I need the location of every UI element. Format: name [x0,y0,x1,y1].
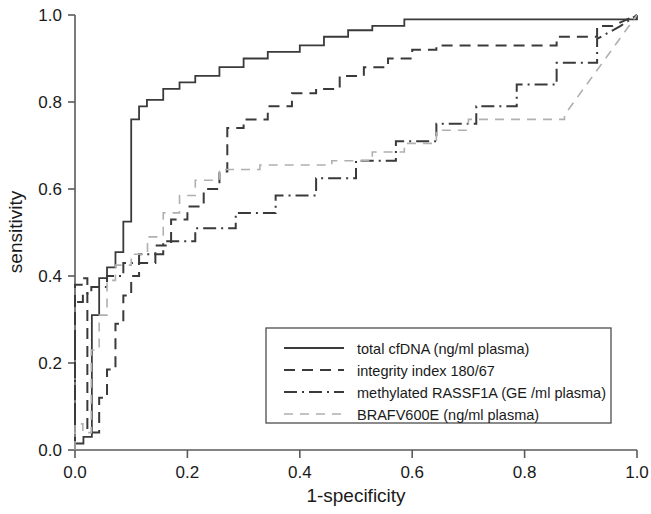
legend-label-2: methylated RASSF1A (GE /ml plasma) [357,385,606,401]
y-tick-label: 0.2 [38,354,62,373]
y-tick-label: 1.0 [38,6,62,25]
x-tick-label: 0.8 [513,463,537,482]
y-axis-ticks: 0.00.20.40.60.81.0 [38,6,75,460]
x-axis-ticks: 0.00.20.40.60.81.0 [63,450,649,482]
legend-label-3: BRAFV600E (ng/ml plasma) [357,407,539,423]
x-tick-label: 0.6 [400,463,424,482]
y-tick-label: 0.4 [38,267,62,286]
y-tick-label: 0.8 [38,93,62,112]
y-tick-label: 0.0 [38,441,62,460]
legend-label-1: integrity index 180/67 [357,363,495,379]
x-axis-title: 1-specificity [306,485,406,506]
legend-label-0: total cfDNA (ng/ml plasma) [357,341,529,357]
legend: total cfDNA (ng/ml plasma)integrity inde… [266,328,611,423]
y-tick-label: 0.6 [38,180,62,199]
x-tick-label: 0.4 [288,463,312,482]
y-axis-title: sensitivity [5,190,26,273]
roc-plot-svg: 0.00.20.40.60.81.0 0.00.20.40.60.81.0 se… [0,0,651,514]
x-tick-label: 0.2 [176,463,200,482]
x-tick-label: 0.0 [63,463,87,482]
roc-curve-figure: 0.00.20.40.60.81.0 0.00.20.40.60.81.0 se… [0,0,651,514]
x-tick-label: 1.0 [625,463,649,482]
